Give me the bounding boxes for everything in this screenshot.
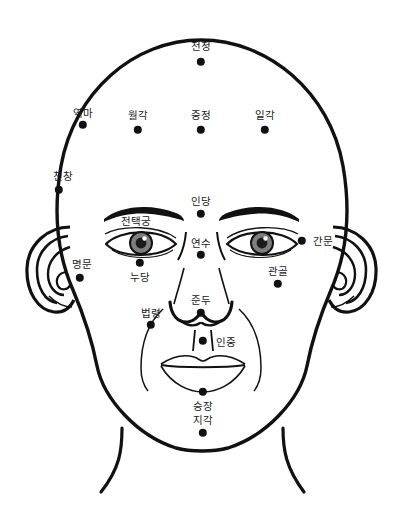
nose-side-left: [174, 268, 184, 304]
nasolabial-fold-right: [239, 309, 261, 391]
acupoint-label-jungjeong: 중정: [191, 109, 211, 121]
acupoint-label-yeonsu: 연수: [191, 237, 211, 249]
acupoint-label-ganmun: 간문: [313, 235, 333, 247]
acupoint-label-jigak: 지각: [193, 414, 213, 426]
acupoint-label-indang: 인당: [191, 195, 211, 207]
ear-left-helix: [37, 236, 68, 303]
acupoint-label-wolgak: 월각: [128, 109, 148, 121]
acupoint-label-nudang: 누당: [130, 271, 150, 283]
eye-left-highlight: [142, 236, 146, 240]
philtrum-left-ridge: [193, 330, 195, 351]
acupoint-label-beopryeong: 법령: [141, 307, 161, 319]
eye-right-highlight: [263, 236, 267, 240]
nose-bridge-left: [178, 232, 186, 260]
mouth-line: [161, 365, 245, 367]
neck-left-outline: [101, 428, 122, 492]
facial-acupoint-diagram: 천정역마월각중정일각천창인당전택궁연수간문명문누당관골준두법령인중승장지각: [0, 0, 403, 512]
philtrum-right-ridge: [211, 330, 213, 351]
acupoint-label-seungjang: 승장: [193, 400, 213, 412]
eyebrow-right: [219, 207, 299, 222]
neck-right-outline: [283, 428, 304, 492]
acupoint-label-cheonchang: 천창: [53, 170, 73, 182]
nose-bridge-right: [217, 232, 225, 260]
acupoint-label-myeongmun: 명문: [72, 258, 92, 270]
acupoint-label-ilgak: 일각: [255, 109, 275, 121]
acupoint-label-jeontaekgung: 전택궁: [121, 215, 150, 227]
nose-side-right: [219, 268, 229, 304]
acupoint-label-jundu: 준두: [191, 294, 211, 306]
mouth-upper-lip: [161, 356, 245, 364]
acupoint-label-cheonjeong: 천정: [191, 40, 211, 52]
acupoint-label-gwangol: 관골: [268, 265, 288, 277]
acupoint-label-injung: 인중: [216, 336, 236, 348]
acupoint-label-yeokma: 역마: [73, 107, 93, 119]
